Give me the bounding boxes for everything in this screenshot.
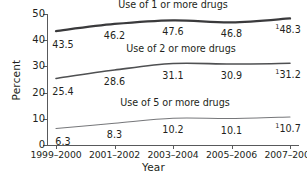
footnote-marker: 1 [275, 23, 279, 31]
series-title-3: Use of 5 or more drugs [120, 98, 229, 108]
data-point-label: 10.2 [162, 125, 183, 135]
line-chart: Percent Year 010203040501999–20002001–20… [0, 0, 307, 183]
data-point-label: 28.6 [104, 77, 125, 87]
data-point-label: 148.3 [275, 25, 301, 35]
data-point-label: 6.3 [55, 137, 70, 147]
series-title-2: Use of 2 or more drugs [126, 44, 235, 54]
series-title-1: Use of 1 or more drugs [118, 0, 227, 10]
footnote-marker: 1 [275, 68, 279, 76]
data-point-label: 10.1 [221, 126, 242, 136]
data-point-label: 8.3 [107, 130, 122, 140]
data-point-label: 47.6 [162, 27, 183, 37]
data-point-label: 31.1 [162, 71, 183, 81]
data-point-label: 46.8 [221, 29, 242, 39]
series-lines [0, 0, 307, 183]
data-point-label: 131.2 [275, 70, 301, 80]
data-point-label: 43.5 [52, 40, 73, 50]
data-point-label: 25.4 [52, 87, 73, 97]
data-point-label: 30.9 [221, 71, 242, 81]
data-point-label: 110.7 [275, 124, 301, 134]
footnote-marker: 1 [275, 122, 279, 130]
data-point-label: 46.2 [104, 31, 125, 41]
